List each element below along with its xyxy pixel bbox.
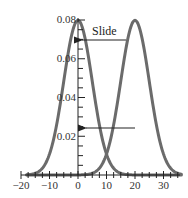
x-tick-label: 0 <box>75 179 81 191</box>
x-tick-label: 10 <box>101 179 113 191</box>
slide-label: Slide <box>92 24 117 38</box>
y-tick-label: 0.08 <box>57 13 77 25</box>
convolution-slide-chart: −20 −10 0 10 20 30 0.02 0.04 0.06 0.08 S… <box>0 0 188 198</box>
x-tick-label: 20 <box>130 179 142 191</box>
curve-centered-0 <box>27 20 182 175</box>
x-tick-label: −20 <box>12 179 30 191</box>
x-tick-label: −10 <box>41 179 59 191</box>
y-axis-ticks <box>78 20 85 165</box>
y-tick-label: 0.06 <box>57 52 77 64</box>
y-tick-label: 0.04 <box>57 91 77 103</box>
y-tick-label: 0.02 <box>57 130 76 142</box>
x-tick-label: 30 <box>158 179 170 191</box>
